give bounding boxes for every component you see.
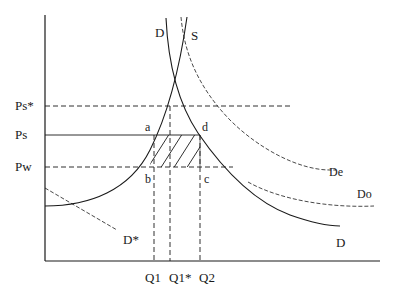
quantity-lines <box>154 106 200 261</box>
label-point-b: b <box>145 172 151 186</box>
label-ps: Ps <box>15 127 27 142</box>
label-d-star: D* <box>123 232 139 247</box>
do-curve <box>248 182 374 206</box>
label-pw: Pw <box>15 159 32 174</box>
label-point-a: a <box>145 120 151 134</box>
label-q1-star: Q1* <box>169 270 191 285</box>
supply-curve <box>45 17 187 206</box>
label-q1: Q1 <box>145 270 161 285</box>
supply-demand-diagram: Ps* Ps Pw Q1 Q1* Q2 D S De Do D D* a d b… <box>0 0 397 300</box>
label-de: De <box>329 165 343 179</box>
demand-curve <box>166 18 340 226</box>
price-lines <box>45 106 293 167</box>
hatched-area <box>140 125 227 180</box>
axes <box>45 15 380 261</box>
label-ps-star: Ps* <box>15 98 34 113</box>
label-d-bottom: D <box>336 235 345 250</box>
label-do: Do <box>357 187 372 201</box>
d-star-line <box>45 188 117 230</box>
label-d-top: D <box>155 25 164 40</box>
label-s-top: S <box>191 28 198 43</box>
label-point-d: d <box>202 120 208 134</box>
label-point-c: c <box>204 172 209 186</box>
label-q2: Q2 <box>199 270 215 285</box>
de-curve <box>181 17 336 170</box>
